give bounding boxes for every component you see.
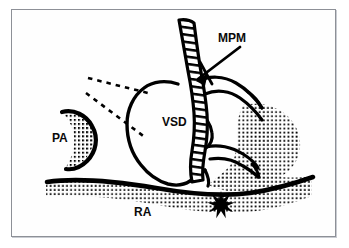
label-mpm: MPM (218, 31, 246, 45)
figure-root: MPM VSD PA RA (0, 0, 349, 248)
label-pa: PA (52, 131, 68, 145)
anatomical-diagram: MPM VSD PA RA (0, 0, 349, 248)
label-vsd: VSD (162, 115, 187, 129)
vsd-chamber-outline (127, 82, 190, 185)
label-ra: RA (134, 205, 152, 219)
hatched-septal-band (179, 20, 207, 182)
